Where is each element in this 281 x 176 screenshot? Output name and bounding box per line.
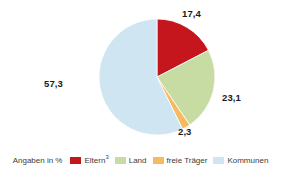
legend-swatch-freie-traeger xyxy=(153,157,164,164)
legend-label-land: Land xyxy=(129,156,147,165)
legend-label-kommunen: Kommunen xyxy=(227,156,268,165)
data-label-land: 23,1 xyxy=(222,92,241,103)
legend-item-eltern: Eltern3 xyxy=(70,156,108,165)
data-label-eltern: 17,4 xyxy=(182,8,201,19)
legend-label-freie-traeger: freie Träger xyxy=(167,156,208,165)
chart-legend: Angaben in % Eltern3 Land freie Träger K… xyxy=(0,150,281,170)
legend-swatch-land xyxy=(115,157,126,164)
legend-item-kommunen: Kommunen xyxy=(213,156,268,165)
legend-unit-note: Angaben in % xyxy=(13,156,63,165)
legend-swatch-kommunen xyxy=(213,157,224,164)
legend-swatch-eltern xyxy=(70,157,81,164)
pie-plot-area: 17,4 23,1 2,3 57,3 xyxy=(0,0,281,146)
pie-svg xyxy=(0,0,281,146)
legend-label-eltern: Eltern3 xyxy=(84,156,108,165)
pie-chart-figure: 17,4 23,1 2,3 57,3 Angaben in % Eltern3 … xyxy=(0,0,281,176)
legend-item-land: Land xyxy=(115,156,147,165)
data-label-freie-traeger: 2,3 xyxy=(178,126,192,137)
legend-item-freie-traeger: freie Träger xyxy=(153,156,208,165)
data-label-kommunen: 57,3 xyxy=(44,78,63,89)
pie-slice-group xyxy=(99,19,215,135)
